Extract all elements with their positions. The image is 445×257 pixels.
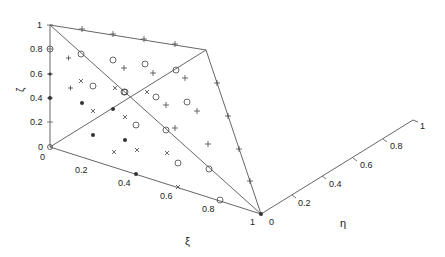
xi-tick-0.2: 0.2 — [75, 165, 88, 175]
xi-tick-0.6: 0.6 — [160, 191, 173, 201]
zeta-axis-label: ζ — [15, 87, 27, 92]
xi-axis-label: ξ — [185, 235, 190, 247]
zeta-tick-0: 0 — [38, 142, 43, 152]
zeta-tick-0.2: 0.2 — [30, 117, 43, 127]
markers — [47, 26, 263, 216]
xi-tick-1: 1 — [250, 217, 255, 227]
tetrahedron-3d-scatter: 1 0.8 0.6 0.4 0.2 0 ζ 0 0.2 0.4 0.6 0.8 … — [0, 0, 445, 257]
zeta-tick-0.4: 0.4 — [30, 93, 43, 103]
eta-axis: 0 0.2 0.4 0.6 0.8 1 η — [269, 121, 425, 229]
eta-tick-0.6: 0.6 — [360, 160, 373, 170]
zeta-tick-0.6: 0.6 — [30, 69, 43, 79]
eta-axis-label: η — [340, 217, 346, 229]
xi-tick-0.8: 0.8 — [202, 204, 215, 214]
xi-tick-0: 0 — [40, 152, 45, 162]
circle-markers — [47, 46, 223, 203]
eta-tick-1: 1 — [420, 121, 425, 131]
eta-tick-0: 0 — [269, 217, 274, 227]
eta-tick-0.2: 0.2 — [298, 198, 311, 208]
tetrahedron-edges — [50, 25, 418, 214]
zeta-tick-1: 1 — [37, 20, 42, 30]
xi-tick-0.4: 0.4 — [118, 178, 131, 188]
zeta-axis: 1 0.8 0.6 0.4 0.2 0 ζ — [15, 20, 53, 152]
eta-tick-0.8: 0.8 — [390, 141, 403, 151]
plus-markers — [66, 26, 253, 184]
zeta-tick-0.8: 0.8 — [30, 44, 43, 54]
eta-tick-0.4: 0.4 — [329, 179, 342, 189]
